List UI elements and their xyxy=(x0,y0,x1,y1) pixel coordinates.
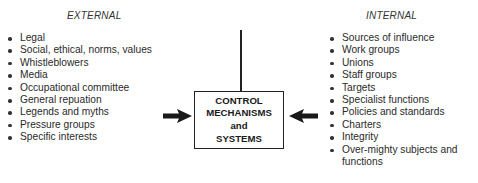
list-item: Sources of influence xyxy=(326,32,476,44)
list-item: Over-mighty subjects and functions xyxy=(326,144,476,169)
box-line: CONTROL xyxy=(215,95,262,108)
box-line: and xyxy=(230,120,247,133)
internal-heading: INTERNAL xyxy=(366,10,417,21)
internal-list: Sources of influence Work groups Unions … xyxy=(326,32,476,168)
left-arrow-icon xyxy=(289,109,318,123)
list-item: Staff groups xyxy=(326,69,476,81)
list-item: Unions xyxy=(326,57,476,69)
list-item: Charters xyxy=(326,119,476,131)
list-item: Policies and standards xyxy=(326,106,476,118)
list-item: Specialist functions xyxy=(326,94,476,106)
box-line: SYSTEMS xyxy=(216,133,262,146)
right-arrow-icon xyxy=(163,109,192,123)
list-item: Specific interests xyxy=(4,131,184,143)
list-item: Integrity xyxy=(326,131,476,143)
list-item: General repuation xyxy=(4,94,184,106)
external-list: Legal Social, ethical, norms, values Whi… xyxy=(4,32,184,144)
list-item: Social, ethical, norms, values xyxy=(4,44,184,56)
list-item: Targets xyxy=(326,82,476,94)
control-mechanisms-box: CONTROL MECHANISMS and SYSTEMS xyxy=(194,91,284,149)
list-item: Legal xyxy=(4,32,184,44)
connector-line xyxy=(240,30,242,91)
list-item: Whistleblowers xyxy=(4,57,184,69)
box-line: MECHANISMS xyxy=(206,107,272,120)
list-item: Legends and myths xyxy=(4,106,184,118)
list-item: Occupational committee xyxy=(4,82,184,94)
list-item: Work groups xyxy=(326,44,476,56)
external-heading: EXTERNAL xyxy=(67,10,121,21)
list-item: Pressure groups xyxy=(4,119,184,131)
list-item: Media xyxy=(4,69,184,81)
